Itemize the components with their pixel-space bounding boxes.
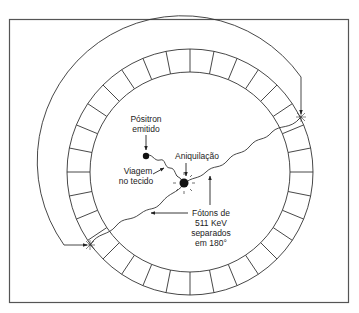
detector-segment-divider bbox=[228, 264, 237, 285]
positron-label-line2: emitido bbox=[132, 124, 160, 134]
figure-frame bbox=[10, 20, 349, 303]
detector-segment-divider bbox=[273, 228, 292, 241]
detector-segment-divider bbox=[166, 51, 170, 74]
detection-burst-icon-right bbox=[296, 112, 306, 122]
travel-label-line2: no tecido bbox=[119, 176, 154, 186]
detector-segment-divider bbox=[88, 104, 107, 117]
detector-segment-divider bbox=[246, 255, 259, 274]
photons-label-line4: em 180° bbox=[195, 238, 227, 248]
detector-segment-divider bbox=[210, 270, 214, 293]
pet-annihilation-diagram: Pósitron emitido Aniquilação Viagem no t… bbox=[0, 0, 359, 313]
detector-segment-divider bbox=[166, 270, 170, 293]
detector-segment-divider bbox=[103, 243, 119, 259]
detector-segment-divider bbox=[122, 70, 135, 89]
detector-segment-divider bbox=[69, 192, 92, 196]
travel-label-line1: Viagem bbox=[124, 166, 153, 176]
detector-segment-divider bbox=[261, 85, 277, 101]
detector-segment-divider bbox=[210, 51, 214, 74]
detector-segment-divider bbox=[122, 255, 135, 274]
detector-segment-divider bbox=[288, 148, 311, 152]
detector-segment-divider bbox=[273, 104, 292, 117]
travel-label-arrow bbox=[153, 168, 164, 174]
detector-segment-divider bbox=[282, 210, 303, 219]
annihilation-burst-icon bbox=[173, 172, 195, 194]
positron-source-dot bbox=[143, 153, 149, 159]
positron-label-line1: Pósitron bbox=[130, 114, 161, 124]
detection-burst-icon-left bbox=[85, 240, 95, 250]
annihilation-label: Aniquilação bbox=[175, 151, 219, 161]
detector-segment-divider bbox=[69, 148, 92, 152]
detector-segment-divider bbox=[228, 58, 237, 79]
detector-segment-divider bbox=[143, 264, 152, 285]
photons-label-line1: Fótons de bbox=[192, 208, 230, 218]
photons-label-line3: separados bbox=[191, 228, 231, 238]
detector-segment-divider bbox=[246, 70, 259, 89]
detector-segment-divider bbox=[143, 58, 152, 79]
detector-segment-divider bbox=[261, 243, 277, 259]
coincidence-arc bbox=[37, 16, 301, 245]
photons-label-line2: 511 KeV bbox=[195, 218, 227, 228]
detector-segment-divider bbox=[103, 85, 119, 101]
detector-segment-divider bbox=[288, 192, 311, 196]
detector-ring bbox=[67, 49, 313, 295]
detector-segment-divider bbox=[76, 125, 97, 134]
detector-segment-divider bbox=[76, 210, 97, 219]
